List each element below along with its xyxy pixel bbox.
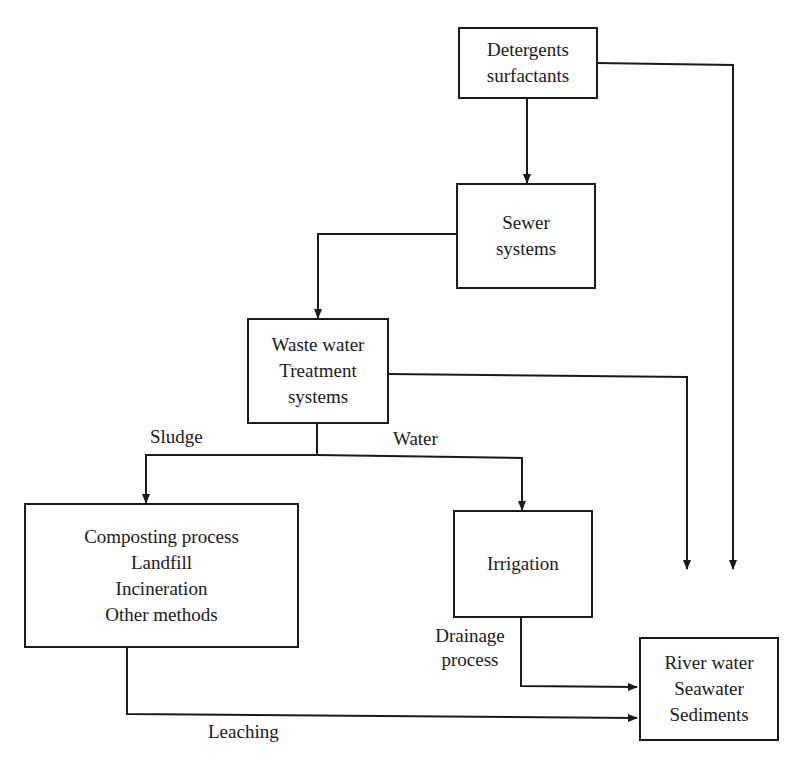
node-disposal-line-4: Other methods [105, 602, 217, 628]
edge-label-drainage-line-2: process [422, 648, 518, 672]
node-receiving-line-3: Sediments [669, 702, 748, 728]
node-detergents-line-1: Detergents [487, 37, 569, 63]
node-sludge-disposal: Composting process Landfill Incineration… [24, 503, 299, 648]
node-wastewater-treatment: Waste water Treatment systems [247, 318, 389, 424]
arrow-leaching-to-receiving [127, 647, 637, 718]
node-sewer: Sewer systems [456, 183, 596, 289]
node-wwtp-line-3: systems [288, 384, 348, 410]
node-disposal-line-2: Landfill [131, 550, 192, 576]
edge-label-drainage-line-1: Drainage [422, 624, 518, 648]
edge-label-sludge: Sludge [150, 425, 203, 449]
arrow-water-to-irrigation [317, 455, 522, 510]
node-receiving-line-1: River water [664, 650, 753, 676]
edge-label-leaching: Leaching [208, 720, 279, 744]
node-wwtp-line-1: Waste water [272, 332, 365, 358]
arrow-detergents-to-receiving [596, 63, 733, 569]
node-detergents: Detergents surfactants [458, 27, 598, 99]
node-sewer-line-1: Sewer [502, 210, 549, 236]
arrow-sewer-to-wwtp [318, 234, 457, 318]
edge-label-drainage: Drainage process [422, 624, 518, 672]
node-receiving-waters: River water Seawater Sediments [639, 637, 779, 741]
arrow-sludge-to-disposal [146, 455, 317, 503]
node-sewer-line-2: systems [496, 236, 556, 262]
node-disposal-line-1: Composting process [84, 524, 239, 550]
node-disposal-line-3: Incineration [116, 576, 208, 602]
edge-label-water: Water [393, 427, 438, 451]
arrow-drainage-to-receiving [521, 617, 637, 687]
node-detergents-line-2: surfactants [487, 63, 569, 89]
node-receiving-line-2: Seawater [674, 676, 744, 702]
node-wwtp-line-2: Treatment [279, 358, 356, 384]
node-irrigation-line-1: Irrigation [487, 551, 559, 577]
node-irrigation: Irrigation [453, 510, 593, 618]
